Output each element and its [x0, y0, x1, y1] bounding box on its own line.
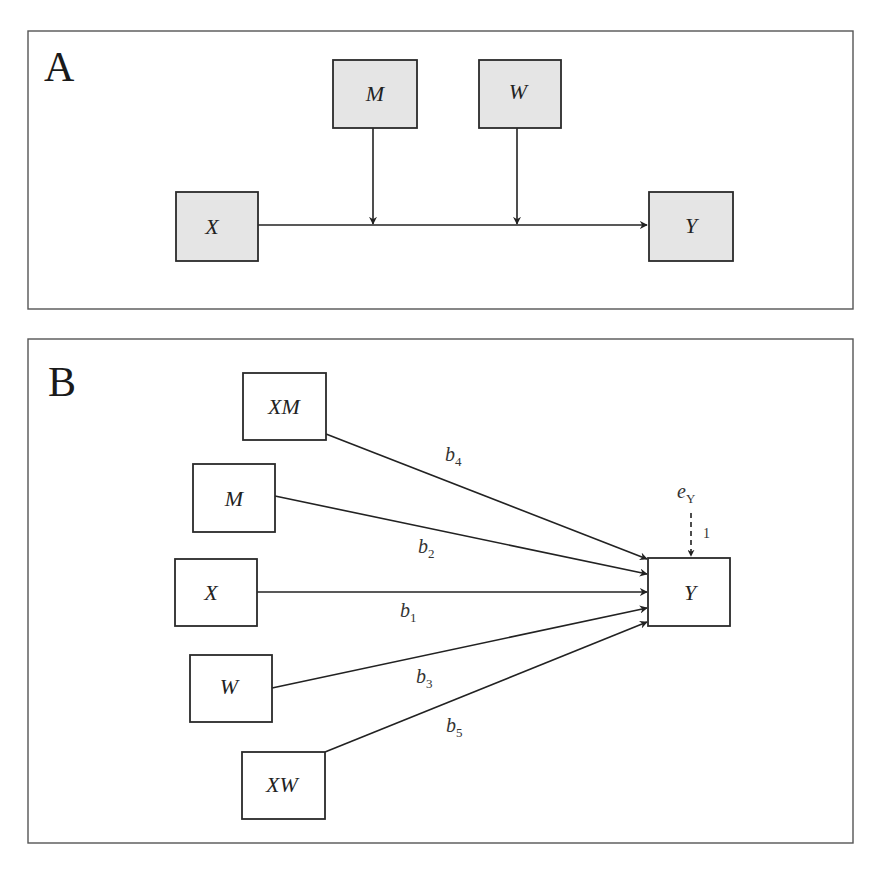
- panel-a-label: A: [44, 44, 75, 90]
- edge-w-to-y: [272, 608, 647, 688]
- error-path-value: 1: [703, 526, 710, 541]
- edge-xw-to-y: [325, 622, 647, 752]
- node-m-label: M: [224, 486, 245, 511]
- coef-b5: b5: [446, 714, 463, 740]
- coef-b2: b2: [418, 535, 435, 561]
- node-xm: XM: [243, 373, 326, 440]
- node-m: M: [193, 464, 275, 532]
- node-y: Y: [648, 558, 730, 626]
- node-xm-label: XM: [267, 394, 301, 419]
- node-x-label: X: [204, 214, 220, 239]
- edge-m-to-y: [275, 496, 647, 574]
- node-w-label: W: [220, 674, 240, 699]
- error-term-label: eY: [677, 480, 696, 506]
- node-x: X: [175, 559, 257, 626]
- node-m-label: M: [365, 81, 386, 106]
- node-xw-label: XW: [265, 772, 299, 797]
- node-x-label: X: [203, 580, 219, 605]
- node-x: X: [176, 192, 258, 261]
- moderation-diagram: A M W X Y B b4: [0, 0, 876, 869]
- panel-a: A M W X Y: [28, 31, 853, 309]
- panel-b-label: B: [48, 359, 76, 405]
- coef-b4: b4: [445, 443, 462, 469]
- node-w: W: [479, 60, 561, 128]
- coef-b1: b1: [400, 599, 417, 625]
- coef-b3: b3: [416, 665, 433, 691]
- node-w-label: W: [509, 79, 529, 104]
- node-xw: XW: [242, 752, 325, 819]
- panel-a-frame: [28, 31, 853, 309]
- node-y: Y: [649, 192, 733, 261]
- node-w: W: [190, 655, 272, 722]
- node-m: M: [333, 60, 417, 128]
- panel-b: B b4 b2 b1 b3 b5 eY 1 XM M X W: [28, 339, 853, 843]
